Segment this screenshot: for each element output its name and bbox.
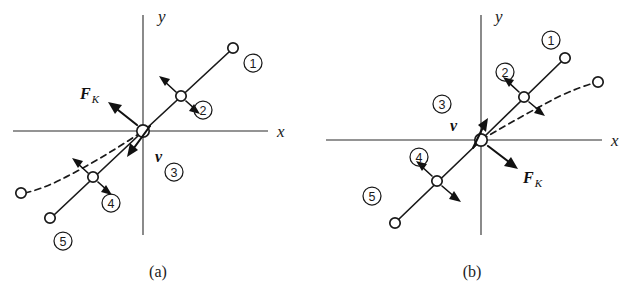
panel-b-marker-1: 1	[542, 31, 560, 49]
svg-text:4: 4	[416, 151, 423, 165]
panel-b-marker-4: 4	[410, 148, 428, 166]
panel-b-y-axis-label: y	[493, 7, 503, 26]
panel-b-dashed-path	[474, 83, 594, 147]
panel-b-marker-2: 2	[496, 63, 514, 81]
panel-b-marker-5: 5	[363, 187, 381, 205]
panel-b-velocity-vector-head	[478, 118, 488, 132]
panel-a-x-axis-label: x	[276, 122, 285, 141]
svg-text:4: 4	[108, 197, 115, 211]
panel-a: y x FK v 1	[13, 7, 285, 281]
panel-b-node-dashed-end	[593, 77, 603, 87]
panel-b-friction-label: FK	[522, 169, 543, 189]
panel-a-marker-4: 4	[102, 194, 120, 212]
panel-b-velocity-label: v	[450, 117, 458, 134]
panel-b: y x v FK 1	[326, 7, 619, 281]
panel-a-node-4	[88, 172, 98, 182]
panel-a-node-2	[176, 91, 186, 101]
panel-b-node-2	[519, 92, 529, 102]
svg-text:2: 2	[200, 104, 207, 118]
panel-a-friction-label: FK	[79, 85, 100, 105]
panel-a-marker-1: 1	[244, 54, 262, 72]
panel-a-velocity-label: v	[155, 148, 163, 165]
svg-text:1: 1	[548, 34, 555, 48]
panel-a-node-5-solid-end	[45, 213, 55, 223]
svg-text:5: 5	[60, 235, 67, 249]
svg-text:1: 1	[250, 57, 257, 71]
svg-text:2: 2	[502, 66, 509, 80]
panel-b-node-4	[432, 176, 442, 186]
svg-text:3: 3	[171, 166, 178, 180]
panel-a-node-1	[228, 43, 238, 53]
panel-b-node-1	[560, 53, 570, 63]
panel-b-x-axis-label: x	[610, 131, 619, 150]
panel-a-marker-5: 5	[54, 232, 72, 250]
panel-b-caption: (b)	[463, 263, 482, 281]
panel-a-caption: (a)	[149, 263, 167, 281]
panel-b-node-5-solid-end	[390, 218, 400, 228]
panel-a-node-5-dashed-end	[16, 188, 26, 198]
physics-friction-figure: y x FK v 1	[0, 0, 632, 298]
svg-text:3: 3	[439, 98, 446, 112]
panel-a-y-axis-label: y	[156, 7, 166, 26]
panel-b-marker-3: 3	[433, 95, 451, 113]
svg-text:5: 5	[369, 190, 376, 204]
panel-a-solid-upper-segment	[147, 52, 229, 128]
panel-a-marker-3: 3	[165, 163, 183, 181]
